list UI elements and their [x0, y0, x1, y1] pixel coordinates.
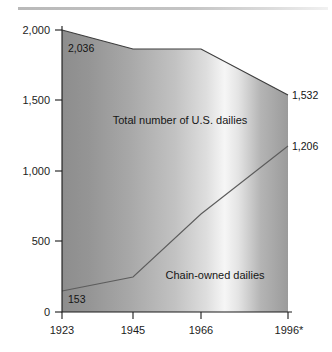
series-label-chain-owned: Chain-owned dailies [165, 269, 265, 281]
y-tick-label-0: 0 [44, 306, 50, 318]
series-label-total-dailies: Total number of U.S. dailies [113, 114, 248, 126]
y-tick-label-2000: 2,000 [22, 24, 50, 36]
newspaper-dailies-area-chart: 0 500 1,000 1,500 2,000 1923 1945 1966 1… [0, 0, 332, 352]
y-tick-label-500: 500 [32, 235, 50, 247]
y-tick-label-1500: 1,500 [22, 94, 50, 106]
x-tick-label-1945: 1945 [121, 324, 145, 336]
value-label-1532: 1,532 [292, 89, 318, 101]
value-label-2036: 2,036 [68, 42, 94, 54]
value-label-1206: 1,206 [292, 140, 318, 152]
x-tick-label-1923: 1923 [50, 324, 74, 336]
x-tick-label-1996: 1996* [275, 324, 304, 336]
value-label-153: 153 [68, 293, 86, 305]
x-tick-label-1966: 1966 [189, 324, 213, 336]
y-tick-label-1000: 1,000 [22, 165, 50, 177]
chart-figure: 0 500 1,000 1,500 2,000 1923 1945 1966 1… [0, 0, 332, 352]
